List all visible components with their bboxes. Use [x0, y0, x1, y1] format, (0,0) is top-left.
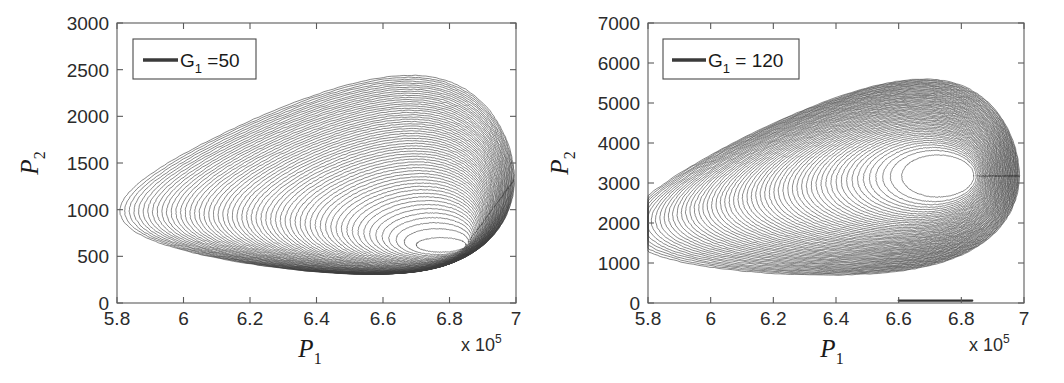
- x-tick-label: 6: [178, 308, 189, 329]
- x-tick-label: 6.8: [436, 308, 462, 329]
- x-tick-label: 6.8: [948, 308, 974, 329]
- plot-svg-left: 5.866.26.46.66.8705001000150020002500300…: [0, 0, 532, 383]
- y-tick-label: 2000: [67, 106, 109, 127]
- y-axis-title-left: P2: [16, 151, 48, 175]
- y-tick-label: 3000: [598, 173, 640, 194]
- plot-svg-right: 5.866.26.46.66.8701000200030004000500060…: [532, 0, 1064, 383]
- y-tick-label: 3000: [67, 13, 109, 34]
- y-tick-label: 0: [98, 293, 109, 314]
- x-tick-label: 7: [511, 308, 522, 329]
- y-tick-label: 2500: [67, 60, 109, 81]
- plot-panel-right: 5.866.26.46.66.8701000200030004000500060…: [532, 0, 1064, 383]
- y-tick-label: 500: [77, 246, 109, 267]
- x-axis-title-left: P1: [297, 335, 321, 367]
- x-axis-exponent-right: x 105: [969, 332, 1010, 355]
- x-tick-label: 6.6: [370, 308, 396, 329]
- x-tick-label: 6.4: [823, 308, 850, 329]
- y-tick-label: 1500: [67, 153, 109, 174]
- legend-right: G1 = 120: [663, 39, 799, 79]
- y-tick-label: 6000: [598, 53, 640, 74]
- y-axis-title-right: P2: [546, 151, 578, 175]
- y-tick-label: 4000: [598, 133, 640, 154]
- y-tick-label: 0: [629, 293, 640, 314]
- y-tick-label: 7000: [598, 13, 640, 34]
- y-tick-label: 5000: [598, 93, 640, 114]
- x-tick-label: 6.6: [885, 308, 911, 329]
- x-tick-label: 6.2: [760, 308, 786, 329]
- x-axis-title-right: P1: [819, 335, 843, 367]
- x-axis-exponent-left: x 105: [461, 332, 502, 355]
- legend-left: G1 =50: [133, 39, 256, 79]
- x-tick-label: 7: [1019, 308, 1030, 329]
- x-tick-label: 6: [705, 308, 716, 329]
- y-tick-label: 2000: [598, 213, 640, 234]
- y-tick-label: 1000: [67, 200, 109, 221]
- plot-panel-left: 5.866.26.46.66.8705001000150020002500300…: [0, 0, 532, 383]
- x-tick-label: 6.4: [303, 308, 330, 329]
- y-tick-label: 1000: [598, 253, 640, 274]
- figure-root: 5.866.26.46.66.8705001000150020002500300…: [0, 0, 1064, 383]
- x-tick-label: 6.2: [237, 308, 263, 329]
